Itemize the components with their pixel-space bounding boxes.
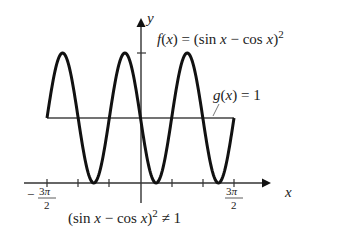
svg-text:3π: 3π xyxy=(226,185,238,197)
svg-text:3π: 3π xyxy=(39,185,51,197)
svg-text:2: 2 xyxy=(231,199,237,211)
x-axis-arrow-icon xyxy=(262,179,271,188)
y-axis-label: y xyxy=(145,10,154,26)
tick-label-neg-3pi-2: − 3π 2 xyxy=(27,185,56,211)
x-axis-label: x xyxy=(284,184,292,200)
svg-text:2: 2 xyxy=(44,199,50,211)
f-function-label: f(x) = (sin x − cos x)2 xyxy=(157,28,284,48)
graph-figure: y x f(x) = (sin x − cos x)2 g(x) = 1 − 3… xyxy=(0,0,343,242)
y-axis-arrow-icon xyxy=(137,18,146,27)
g-function-label: g(x) = 1 xyxy=(213,87,261,104)
svg-text:−: − xyxy=(27,187,34,202)
inequality-caption: (sin x − cos x)2 ≠ 1 xyxy=(68,207,181,227)
g-label-leader xyxy=(213,104,219,116)
tick-label-pos-3pi-2: 3π 2 xyxy=(225,185,243,211)
